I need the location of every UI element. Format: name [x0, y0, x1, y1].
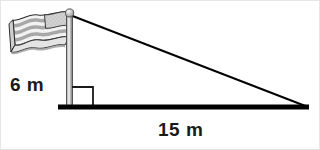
right-angle-marker-icon	[72, 87, 93, 106]
geometry-figure: 6 m 15 m	[0, 0, 320, 150]
height-dimension-label: 6 m	[10, 74, 44, 96]
hypotenuse-line	[70, 15, 308, 107]
flag-icon	[9, 12, 69, 55]
flagpole-icon	[67, 14, 73, 107]
base-dimension-label: 15 m	[158, 119, 203, 141]
pole-finial-icon	[66, 9, 74, 17]
